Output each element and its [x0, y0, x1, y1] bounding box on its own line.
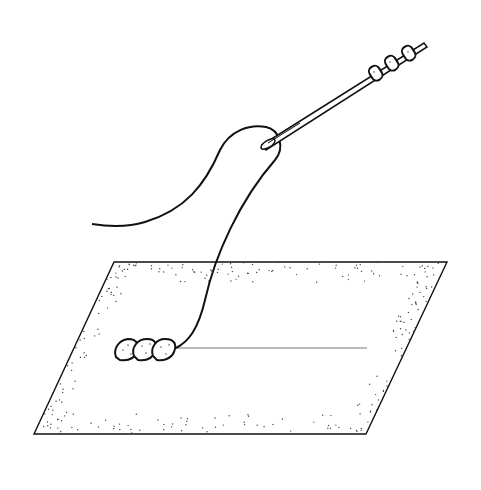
beads-on-mat [115, 339, 175, 360]
fabric-mat [34, 261, 447, 434]
needle [259, 43, 427, 151]
beads-on-needle [367, 44, 417, 83]
beading-illustration [0, 0, 481, 490]
